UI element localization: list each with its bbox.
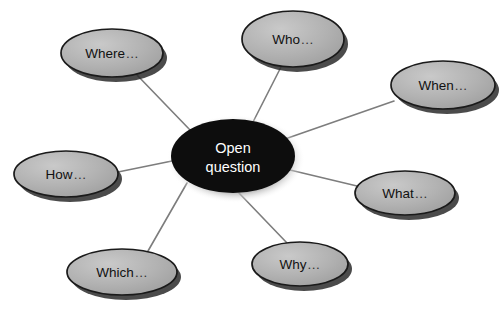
node-label-ellipsis: ... bbox=[308, 257, 321, 272]
node-why[interactable]: Why... bbox=[252, 242, 352, 291]
node-label-text: Where bbox=[85, 46, 125, 61]
connector-who bbox=[252, 67, 281, 124]
node-label-text: Why bbox=[280, 257, 307, 272]
node-label-ellipsis: ... bbox=[135, 265, 148, 280]
node-when[interactable]: When... bbox=[391, 61, 499, 114]
node-label-when: When... bbox=[418, 78, 467, 93]
connector-how bbox=[118, 161, 172, 172]
node-label-ellipsis: ... bbox=[415, 186, 428, 201]
node-label-who: Who... bbox=[272, 32, 314, 47]
node-label-text: How bbox=[46, 167, 73, 182]
node-who[interactable]: Who... bbox=[242, 11, 348, 72]
center-node-label-line1: Open bbox=[215, 140, 250, 156]
connector-when bbox=[285, 101, 394, 139]
center-node-label-line2: question bbox=[206, 159, 261, 175]
node-label-why: Why... bbox=[280, 257, 321, 272]
center-node-ellipse bbox=[171, 119, 295, 193]
node-label-what: What... bbox=[382, 186, 427, 201]
node-which[interactable]: Which... bbox=[67, 249, 181, 300]
node-label-text: Which bbox=[96, 265, 134, 280]
node-label-how: How... bbox=[46, 167, 87, 182]
connector-where bbox=[137, 75, 191, 131]
node-label-text: When bbox=[418, 78, 453, 93]
node-label-ellipsis: ... bbox=[126, 46, 139, 61]
node-label-text: Who bbox=[272, 32, 300, 47]
node-where[interactable]: Where... bbox=[61, 29, 167, 82]
node-label-which: Which... bbox=[96, 265, 147, 280]
center-node-layer: Openquestion bbox=[167, 115, 305, 203]
node-how[interactable]: How... bbox=[14, 151, 122, 202]
node-what[interactable]: What... bbox=[355, 171, 459, 220]
center-node-open-question[interactable]: Openquestion bbox=[167, 115, 305, 203]
node-label-ellipsis: ... bbox=[74, 167, 87, 182]
connector-which bbox=[148, 183, 187, 251]
node-label-ellipsis: ... bbox=[455, 78, 468, 93]
mind-map-diagram: Who...Where...When...What...How...Which.… bbox=[0, 0, 504, 312]
node-label-ellipsis: ... bbox=[301, 32, 314, 47]
node-label-text: What bbox=[382, 186, 414, 201]
node-label-where: Where... bbox=[85, 46, 139, 61]
diagram-canvas: Who...Where...When...What...How...Which.… bbox=[0, 0, 504, 312]
